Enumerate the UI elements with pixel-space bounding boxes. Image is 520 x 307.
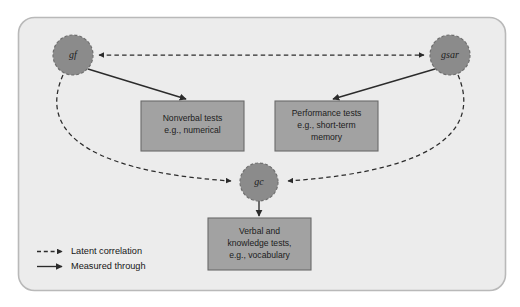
- box-verbal: Verbal and knowledge tests, e.g., vocabu…: [208, 218, 311, 270]
- legend-measured-label: Measured through: [71, 261, 146, 271]
- box-verbal-line-1: Verbal and: [239, 226, 280, 236]
- box-verbal-line-2: knowledge tests,: [227, 238, 291, 248]
- box-nonverbal: Nonverbal tests e.g., numerical: [141, 101, 244, 151]
- legend-latent-label: Latent correlation: [71, 246, 142, 256]
- node-gf: gf: [53, 35, 93, 75]
- box-nonverbal-line-2: e.g., numerical: [164, 125, 220, 135]
- node-gc: gc: [240, 163, 278, 201]
- box-performance-line-2: e.g., short-term: [297, 120, 355, 130]
- box-nonverbal-line-1: Nonverbal tests: [163, 113, 223, 123]
- node-gc-label: gc: [254, 176, 264, 187]
- node-gsar-label: gsar: [441, 49, 459, 60]
- box-performance: Performance tests e.g., short-term memor…: [275, 101, 378, 151]
- node-gsar: gsar: [430, 35, 470, 75]
- diagram-canvas: Nonverbal tests e.g., numerical Performa…: [0, 0, 520, 307]
- box-verbal-line-3: e.g., vocabulary: [229, 250, 290, 260]
- node-gf-label: gf: [69, 49, 78, 60]
- box-performance-line-1: Performance tests: [292, 108, 362, 118]
- cognitive-abilities-diagram: Nonverbal tests e.g., numerical Performa…: [0, 0, 520, 307]
- box-performance-line-3: memory: [311, 132, 343, 142]
